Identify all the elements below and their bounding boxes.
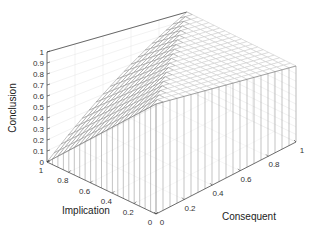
consequent-tick-label: 0.4	[212, 189, 224, 198]
z-tick-label: 0.8	[33, 70, 45, 79]
z-tick-label: 0.2	[33, 136, 45, 145]
implication-tick-label: 1	[39, 166, 44, 175]
implication-tick-label: 0.8	[57, 176, 69, 185]
z-tick-label: 1	[40, 48, 45, 57]
implication-tick-label: 0.2	[123, 208, 135, 217]
z-axis-ticks: 00.10.20.30.40.50.60.70.80.91	[33, 48, 50, 167]
consequent-tick-label: 0	[160, 218, 165, 227]
z-tick-label: 0.3	[33, 125, 45, 134]
mesh-surface	[47, 12, 296, 214]
consequent-tick-label: 0.8	[268, 160, 280, 169]
z-tick-label: 0.4	[33, 114, 45, 123]
consequent-axis-label: Consequent	[222, 211, 276, 222]
z-tick-label: 0.6	[33, 92, 45, 101]
z-tick-label: 0.5	[33, 103, 45, 112]
consequent-tick-label: 0.6	[240, 175, 252, 184]
surface-plot: 00.10.20.30.40.50.60.70.80.91 00.20.40.6…	[0, 0, 322, 232]
consequent-tick-label: 0.2	[184, 204, 196, 213]
implication-tick-label: 0.6	[79, 187, 91, 196]
implication-tick-label: 0	[148, 218, 153, 227]
z-tick-label: 0.7	[33, 81, 45, 90]
z-axis-label: Conclusion	[7, 83, 18, 132]
z-tick-label: 0.1	[33, 147, 45, 156]
consequent-tick-label: 1	[300, 146, 305, 155]
implication-axis-ticks: 00.20.40.60.81	[39, 160, 158, 227]
z-tick-label: 0.9	[33, 59, 45, 68]
implication-axis-label: Implication	[62, 205, 110, 216]
